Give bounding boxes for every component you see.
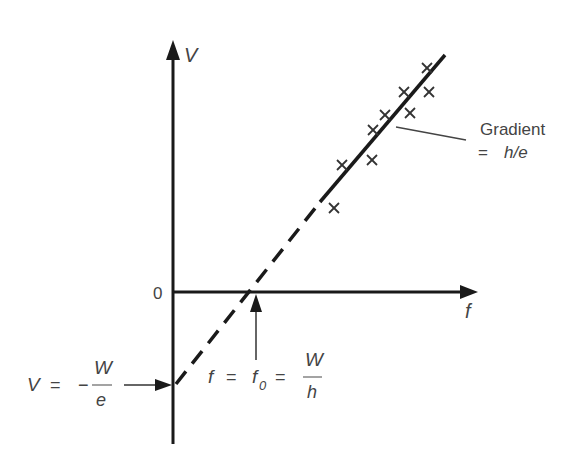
best-fit-line bbox=[320, 55, 445, 202]
x-intercept-equals-2: = bbox=[275, 367, 286, 387]
v-axis-label: V bbox=[184, 44, 199, 66]
f-axis bbox=[173, 285, 478, 299]
gradient-value: h/e bbox=[504, 143, 528, 162]
data-point-cross-icon bbox=[399, 87, 409, 97]
gradient-label: Gradient bbox=[480, 120, 545, 139]
f-axis-label: f bbox=[465, 300, 473, 322]
data-point-cross-icon bbox=[367, 155, 377, 165]
y-intercept-annotation: V = − W e bbox=[27, 357, 172, 410]
y-intercept-denominator: e bbox=[96, 390, 106, 410]
data-point-cross-icon bbox=[329, 203, 339, 213]
y-intercept-equals: = bbox=[50, 375, 61, 395]
v-axis-arrow-icon bbox=[166, 40, 180, 60]
x-intercept-denominator: h bbox=[307, 382, 317, 402]
y-intercept-arrow-icon bbox=[155, 379, 172, 391]
gradient-equals: = bbox=[478, 143, 488, 162]
y-intercept-lhs: V bbox=[27, 374, 42, 395]
f-axis-arrow-icon bbox=[460, 285, 478, 299]
photoelectric-graph: V f 0 Gradient = h/e V = − W e bbox=[0, 0, 575, 463]
x-intercept-equals-1: = bbox=[226, 367, 237, 387]
x-intercept-arrow-icon bbox=[250, 294, 262, 312]
data-point-cross-icon bbox=[405, 108, 415, 118]
y-intercept-sign: − bbox=[78, 375, 89, 395]
x-intercept-lhs: f bbox=[208, 366, 215, 387]
data-point-cross-icon bbox=[424, 87, 434, 97]
x-intercept-mid-subscript: 0 bbox=[259, 378, 267, 393]
x-intercept-annotation: f = f 0 = W h bbox=[208, 294, 325, 402]
data-point-cross-icon bbox=[368, 125, 378, 135]
y-intercept-numerator: W bbox=[94, 357, 114, 378]
data-point-cross-icon bbox=[380, 110, 390, 120]
data-point-cross-icon bbox=[422, 63, 432, 73]
origin-label: 0 bbox=[153, 284, 162, 303]
x-intercept-mid: f bbox=[252, 366, 259, 387]
gradient-pointer-line bbox=[396, 127, 466, 140]
x-intercept-numerator: W bbox=[305, 349, 325, 370]
data-point-cross-icon bbox=[337, 160, 347, 170]
